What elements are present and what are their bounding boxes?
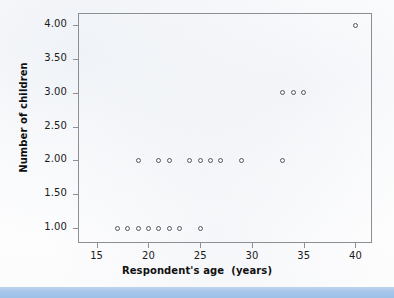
data-point (198, 158, 203, 163)
y-tick-label: 3.00 (44, 86, 67, 97)
y-tick-label: 1.50 (44, 187, 67, 198)
x-tick-label: 20 (142, 250, 155, 261)
data-point (167, 226, 172, 231)
bottom-accent-bar (0, 287, 394, 298)
data-point (136, 158, 141, 163)
data-point (115, 226, 120, 231)
data-point (280, 90, 285, 95)
plot-area (78, 13, 372, 243)
data-point (125, 226, 130, 231)
data-point (208, 158, 213, 163)
data-point (167, 158, 172, 163)
scatter-plot-figure: 1.001.502.002.503.003.504.00 15202530354… (0, 0, 394, 298)
y-tick-mark (73, 228, 78, 229)
y-tick-mark (73, 25, 78, 26)
data-point (187, 158, 192, 163)
data-point (198, 226, 203, 231)
y-tick-mark (73, 160, 78, 161)
x-tick-label: 35 (297, 250, 310, 261)
x-axis-title: Respondent's age (years) (0, 265, 394, 276)
x-tick-label: 15 (90, 250, 103, 261)
y-tick-mark (73, 194, 78, 195)
data-point (280, 158, 285, 163)
y-axis-title: Number of children (18, 53, 29, 183)
y-tick-mark (73, 127, 78, 128)
data-point (156, 226, 161, 231)
data-point (136, 226, 141, 231)
x-tick-mark (355, 243, 356, 248)
x-tick-label: 40 (349, 250, 362, 261)
data-point (146, 226, 151, 231)
y-tick-mark (73, 93, 78, 94)
x-tick-label: 25 (194, 250, 207, 261)
data-point (353, 23, 358, 28)
x-tick-mark (148, 243, 149, 248)
data-point (218, 158, 223, 163)
data-point (301, 90, 306, 95)
y-tick-mark (73, 59, 78, 60)
y-tick-label: 2.50 (44, 120, 67, 131)
y-tick-label: 2.00 (44, 153, 67, 164)
data-point (291, 90, 296, 95)
x-tick-mark (200, 243, 201, 248)
x-tick-mark (252, 243, 253, 248)
data-point (156, 158, 161, 163)
y-tick-label: 4.00 (44, 18, 67, 29)
y-tick-label: 3.50 (44, 52, 67, 63)
x-tick-mark (304, 243, 305, 248)
x-tick-mark (97, 243, 98, 248)
data-point (177, 226, 182, 231)
x-tick-label: 30 (245, 250, 258, 261)
y-tick-label: 1.00 (44, 221, 67, 232)
data-point (239, 158, 244, 163)
